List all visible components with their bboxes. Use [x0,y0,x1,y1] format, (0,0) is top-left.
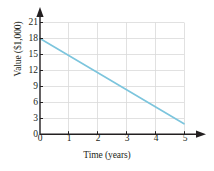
horizontal-gridlines [40,23,184,119]
plot-area [0,0,214,171]
depreciation-line-chart: Value ($1,000) 21 18 15 12 9 6 3 0 0 1 2… [0,0,214,171]
vertical-gridlines [69,23,185,135]
x-axis [40,131,206,138]
data-series-value [40,39,184,124]
